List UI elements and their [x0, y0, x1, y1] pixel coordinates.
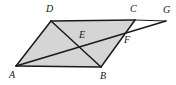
vertex-label-f: F — [124, 35, 130, 45]
vertex-label-e: E — [79, 30, 85, 40]
geometry-figure: A B C D E F G — [0, 0, 176, 85]
vertex-label-c: C — [130, 4, 137, 14]
geometry-canvas — [0, 0, 176, 85]
segment-cd — [51, 20, 135, 21]
segment-cg — [135, 20, 166, 21]
vertex-label-g: G — [163, 5, 170, 15]
vertex-label-a: A — [9, 70, 15, 80]
vertex-label-d: D — [46, 4, 53, 14]
vertex-label-b: B — [100, 71, 106, 81]
segment-ab — [16, 66, 101, 67]
